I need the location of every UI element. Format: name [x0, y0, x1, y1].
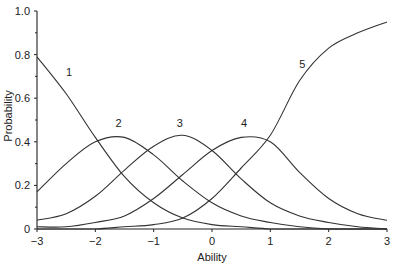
x-tick-label: −2 [89, 235, 102, 247]
curve-category-4 [37, 137, 387, 227]
curve-category-5 [37, 22, 387, 229]
y-tick-label: 0.4 [15, 136, 30, 148]
category-curves [37, 22, 387, 229]
curve-label-3: 3 [177, 117, 183, 129]
x-axis: −3−2−10123 [31, 229, 390, 247]
y-tick-label: 0.8 [15, 49, 30, 61]
curve-label-2: 2 [116, 117, 122, 129]
y-tick-label: 0.6 [15, 92, 30, 104]
x-tick-label: 0 [209, 235, 215, 247]
x-tick-label: −3 [31, 235, 44, 247]
x-tick-label: 1 [267, 235, 273, 247]
curve-label-5: 5 [299, 58, 305, 70]
curve-labels: 12345 [66, 58, 305, 129]
y-axis: 00.20.40.60.81.0 [15, 5, 37, 235]
x-tick-label: 2 [326, 235, 332, 247]
x-axis-title: Ability [197, 251, 227, 263]
y-tick-label: 1.0 [15, 5, 30, 17]
x-tick-label: −1 [147, 235, 160, 247]
curve-label-1: 1 [66, 66, 72, 78]
y-axis-title: Probability [2, 90, 14, 142]
curve-label-4: 4 [241, 117, 247, 129]
y-tick-label: 0 [24, 223, 30, 235]
probability-curves-chart: 00.20.40.60.81.0 −3−2−10123 12345 Abilit… [0, 0, 399, 269]
x-tick-label: 3 [384, 235, 390, 247]
y-tick-label: 0.2 [15, 179, 30, 191]
curve-category-3 [37, 135, 387, 229]
